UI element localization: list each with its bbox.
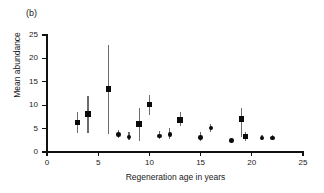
y-tick-label: 20 [20, 53, 38, 62]
panel-label: (b) [26, 8, 37, 18]
y-tick [42, 81, 46, 82]
x-axis-label: Regeneration age in years [47, 172, 304, 182]
x-tick-label: 15 [191, 158, 211, 167]
data-point [116, 132, 121, 137]
y-tick [42, 105, 46, 106]
y-tick [42, 151, 46, 152]
data-point [229, 138, 234, 143]
y-tick-label: 10 [20, 100, 38, 109]
x-tick [200, 152, 201, 156]
x-tick [46, 152, 47, 156]
y-axis-label: Mean abundance [12, 20, 22, 110]
data-point [177, 117, 183, 123]
data-point [168, 132, 173, 137]
y-tick-label: 25 [20, 30, 38, 39]
x-tick [302, 152, 303, 156]
x-tick-label: 20 [242, 158, 262, 167]
y-tick-label: 0 [20, 147, 38, 156]
y-tick-label: 5 [20, 124, 38, 133]
data-point [198, 135, 203, 140]
data-point [147, 102, 153, 108]
plot-area [47, 35, 303, 152]
x-tick-label: 10 [139, 158, 159, 167]
y-tick [42, 34, 46, 35]
x-tick [251, 152, 252, 156]
error-bar [241, 108, 242, 137]
data-point [270, 136, 275, 141]
data-point [75, 120, 81, 126]
data-point [85, 111, 91, 117]
x-tick-label: 0 [37, 158, 57, 167]
x-tick-label: 25 [293, 158, 313, 167]
figure-panel-b: (b) 0510152025 0510152025 Regeneration a… [0, 0, 324, 193]
x-tick-label: 5 [88, 158, 108, 167]
y-tick-label: 15 [20, 77, 38, 86]
y-tick [42, 58, 46, 59]
data-point [239, 116, 245, 122]
data-point [136, 121, 142, 127]
x-tick [98, 152, 99, 156]
data-point [243, 134, 249, 140]
x-tick [149, 152, 150, 156]
data-point [106, 86, 112, 92]
y-tick [42, 128, 46, 129]
